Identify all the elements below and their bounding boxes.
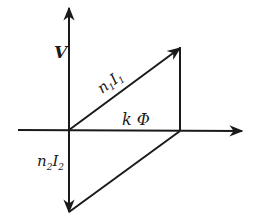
- triangle-closing-side: [69, 131, 180, 212]
- voltage-label: V: [54, 42, 69, 62]
- phasor-diagram: V n1I1 kΦ n2I2: [0, 0, 254, 223]
- flux-label: kΦ: [122, 110, 150, 129]
- svg-text:n1I1: n1I1: [94, 67, 127, 98]
- n1i1-label: n1I1: [94, 67, 127, 98]
- n2i2-label: n2I2: [37, 152, 64, 172]
- horizontal-axis: [18, 130, 242, 131]
